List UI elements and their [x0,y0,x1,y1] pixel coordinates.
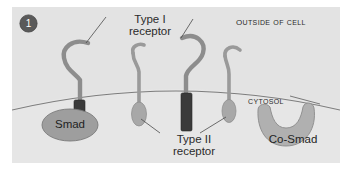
type-1-receptor-left-ectodomain [64,42,88,104]
type-2-receptor-label: Type II receptor [152,133,236,158]
type-2-receptor-label-line2: receptor [152,145,236,157]
type-2-receptor-left [132,44,147,126]
type-1-receptor-label: Type I receptor [108,13,192,38]
smad-label: Smad [42,118,98,130]
type-2-receptor-left-hook [133,44,144,53]
outside-of-cell-label: Outside of Cell [236,15,306,27]
cytosol-label: Cytosol [248,96,284,106]
type-1-receptor-label-line2: receptor [108,25,192,37]
type-1-receptor-right-kinase-domain [181,93,192,131]
co-smad-label: Co-Smad [262,133,324,145]
panel-number-label: 1 [20,15,37,32]
type-2-receptor-left-kinase-domain [132,102,147,126]
type-1-receptor-label-line1: Type I [108,13,192,25]
type-2-receptor-right-kinase-domain [222,100,236,123]
figure-panel: 1 Outside of Cell Cytosol Type I recepto… [0,0,352,179]
type-2-receptor-right-hook [225,47,240,56]
type-2-receptor-label-line1: Type II [152,133,236,145]
